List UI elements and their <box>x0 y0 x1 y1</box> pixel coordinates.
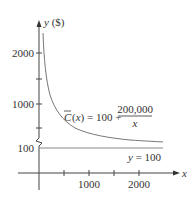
y-axis-label: y ($) <box>43 16 65 29</box>
curve-equation: C (x) = 100 + 200,000 x <box>64 103 153 129</box>
x-tick-2000: 2000 <box>128 178 151 190</box>
x-axis-arrow-icon <box>173 171 180 176</box>
x-axis-label: x <box>181 167 187 179</box>
asymptote-label: y = 100 <box>127 151 162 163</box>
y-tick-100: 100 <box>18 142 35 154</box>
x-tick-1000: 1000 <box>78 178 101 190</box>
equation-c: C <box>64 111 72 123</box>
y-axis-arrow-icon <box>37 20 42 27</box>
equation-denominator: x <box>132 117 138 129</box>
equation-numerator: 200,000 <box>117 103 153 115</box>
y-axis <box>36 20 42 190</box>
chart: 2000 1000 100 1000 2000 y ($) x C (x) = … <box>0 0 193 197</box>
y-tick-1000: 1000 <box>12 98 35 110</box>
y-tick-2000: 2000 <box>12 47 35 59</box>
x-axis <box>18 170 180 176</box>
cost-curve <box>43 33 163 142</box>
equation-rest: (x) = 100 + <box>72 111 121 124</box>
